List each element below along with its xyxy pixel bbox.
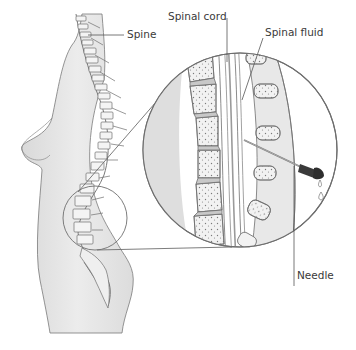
diagram-canvas <box>0 0 356 350</box>
magnify-circle-large <box>140 40 337 260</box>
lumbar-puncture-diagram: Spine Spinal cord Spinal fluid Needle <box>0 0 356 350</box>
spinal-fluid-label: Spinal fluid <box>265 27 323 38</box>
spine-label: Spine <box>127 29 156 40</box>
spinal-cord-label: Spinal cord <box>168 11 227 22</box>
torso-side-view <box>22 14 134 333</box>
needle-label: Needle <box>297 270 334 281</box>
